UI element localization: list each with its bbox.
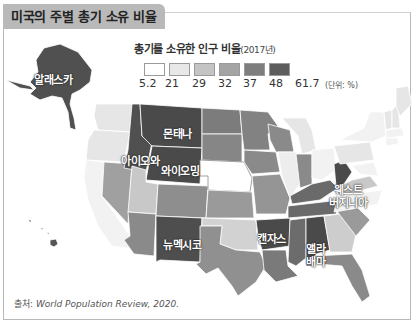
label-wyoming: 와이오밍 xyxy=(161,165,199,178)
state-colorado xyxy=(156,184,208,218)
state-alaska xyxy=(30,44,92,130)
state-wisconsin xyxy=(268,124,294,152)
label-alabama-line1: 앨라 xyxy=(306,243,325,256)
state-south-dakota xyxy=(202,134,242,162)
state-connecticut xyxy=(386,138,398,146)
label-west-virginia-line1: 웨스트 xyxy=(334,184,363,197)
state-new-york xyxy=(340,112,386,142)
state-pennsylvania xyxy=(334,142,374,164)
source-note: 출처: World Population Review, 2020. xyxy=(14,297,179,310)
state-mississippi xyxy=(288,218,306,266)
label-arkansas: 캔자스 xyxy=(257,233,286,246)
state-maryland xyxy=(352,162,378,176)
label-west-virginia-line2: 버지니아 xyxy=(329,197,367,210)
label-alabama: 앨라배마 xyxy=(306,243,325,269)
state-kansas xyxy=(206,190,254,218)
label-montana: 몬태나 xyxy=(163,128,192,141)
label-alaska: 알래스카 xyxy=(34,74,72,87)
state-iowa xyxy=(244,150,280,174)
source-prefix: 출처: xyxy=(14,299,33,309)
state-north-dakota xyxy=(202,108,242,134)
state-massachusetts xyxy=(386,128,404,138)
state-maine xyxy=(396,86,412,116)
state-hawaii xyxy=(28,220,58,247)
source-text: World Population Review, 2020. xyxy=(36,299,179,309)
us-choropleth-map xyxy=(0,0,415,325)
state-washington xyxy=(94,104,132,132)
label-alabama-line2: 배마 xyxy=(306,256,325,269)
label-west-virginia: 웨스트버지니아 xyxy=(329,184,367,210)
state-montana xyxy=(140,104,202,148)
state-nebraska xyxy=(200,160,252,192)
state-ohio xyxy=(312,148,336,180)
label-new-mexico: 뉴멕시코 xyxy=(163,239,201,252)
label-idaho: 아이오와 xyxy=(121,155,159,168)
